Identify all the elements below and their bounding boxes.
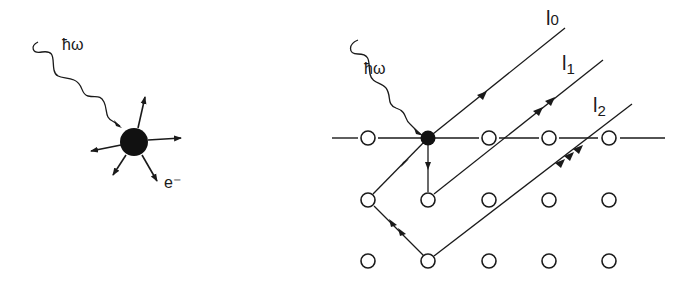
lattice-atom [361,131,375,145]
electron-arrow-icon [113,155,126,175]
path-l2-arrow-icon [398,228,406,236]
path-l0-line [428,28,565,138]
photon-wave-icon [351,40,421,134]
lattice-atom [542,193,556,207]
right-panel: ħω [332,7,665,268]
emitter-atom-icon [421,131,436,146]
lattice-atom [482,193,496,207]
lattice-atom [542,131,556,145]
lattice-atom [482,131,496,145]
electron-label: e⁻ [164,174,181,191]
path-l2-arrow-icon [573,145,583,154]
path-label-l0: l0 [546,7,559,29]
atom-icon [120,128,148,156]
path-l0-arrow-icon [477,91,487,100]
photon-label: ħω [62,36,83,53]
path-l2-arrow-icon [564,152,574,161]
lattice-atom [602,131,616,145]
lattice-atom [602,193,616,207]
lattice-atom [361,193,375,207]
photon-wave-icon [33,42,120,126]
path-label-l1: l1 [562,52,575,77]
photon-arrowhead-icon [114,120,122,128]
lattice-atom [361,254,375,268]
diagram-canvas: ħω e⁻ ħω [0,0,694,282]
path-l2-line [434,104,632,256]
path-label-l2: l2 [593,94,606,119]
electron-arrow-icon [148,138,181,140]
path-l2-arrow-icon [401,159,409,167]
lattice-atom [542,254,556,268]
path-l2-down-left-line [373,138,428,194]
lattice-atom [421,193,435,207]
path-l1-down-arrow-icon [425,162,431,170]
path-l2-arrow-icon [389,219,397,227]
photon-label: ħω [364,60,385,77]
electron-arrow-icon [142,155,157,181]
lattice-atom [421,254,435,268]
electron-arrow-icon [91,145,121,151]
lattice-atom [482,254,496,268]
left-panel: ħω e⁻ [33,36,181,191]
path-l2-arrow-icon [555,159,565,168]
path-l1-line [434,60,603,194]
lattice-atom [602,254,616,268]
electron-arrow-icon [138,97,145,128]
